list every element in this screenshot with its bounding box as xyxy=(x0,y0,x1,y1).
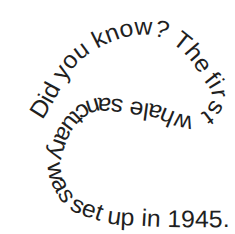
curved-text-content: Did you know? The first whale sanctuary … xyxy=(24,13,235,233)
curved-text-canvas: Did you know? The first whale sanctuary … xyxy=(0,0,235,234)
curved-text: Did you know? The first whale sanctuary … xyxy=(24,13,235,233)
fact-graphic: Did you know? The first whale sanctuary … xyxy=(0,0,235,234)
